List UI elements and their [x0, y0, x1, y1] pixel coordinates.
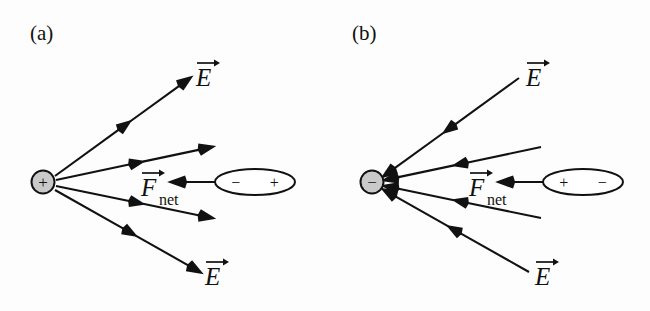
panel-b-mid-arrowhead — [451, 197, 469, 209]
panel-b-shaft-outer — [394, 188, 454, 200]
panel-a-net-force-label-subscript: net — [159, 191, 179, 208]
panel-b-shaft-outer — [394, 165, 454, 178]
panel-b-net-force-label-subscript: net — [487, 191, 507, 208]
panel-a-net-force-label-arrow-tip — [159, 170, 165, 177]
panel-a-mid-arrowhead — [121, 224, 138, 237]
panel-b-dipole-right-pole: − — [598, 174, 607, 191]
panel-a-shaft-inner — [56, 186, 130, 201]
panel-a-charge-sign: + — [38, 173, 48, 192]
panel-b-charge-sign: − — [367, 173, 377, 192]
panel-a-field-label-lower-arrow-tip — [223, 259, 229, 266]
panel-a-tip-arrowhead — [198, 209, 217, 221]
panel-a-field-label-lower: E — [204, 259, 229, 290]
panel-a-field-label-upper-letter: E — [195, 64, 211, 91]
panel-b-field-line-lower-mid — [381, 182, 541, 218]
panel-b-net-force-arrowhead — [495, 175, 515, 188]
panel-b-label: (b) — [352, 21, 377, 45]
panel-b-shaft-inner — [454, 78, 519, 125]
panel-a-net-force-label: Fnet — [140, 170, 179, 208]
panel-b-field-label-upper-arrow-tip — [544, 60, 550, 67]
panel-b-field-label-upper-letter: E — [525, 64, 541, 91]
panel-b-field-label-lower: E — [534, 259, 559, 290]
panel-a-shaft-outer — [143, 149, 203, 162]
panel-b-mid-arrowhead — [442, 120, 458, 134]
diagram-canvas: (a)−++EEFnet(b)+−−EEFnet — [0, 0, 650, 311]
panel-b-source-charge-negative: − — [361, 171, 384, 194]
panel-a-shaft-outer — [130, 83, 183, 121]
panel-a-dipole-outline — [215, 169, 295, 195]
panel-a-shaft-inner — [55, 190, 124, 229]
panel-a-field-line-upper — [55, 75, 194, 176]
panel-b-shaft-inner — [460, 233, 529, 272]
panel-b-net-force-arrow — [495, 175, 543, 188]
panel-b-field-label-lower-arrow-tip — [553, 259, 559, 266]
panel-a-field-line-upper-mid — [56, 143, 216, 180]
panel-b-net-force-label-letter: F — [468, 174, 485, 201]
panel-a-source-charge-positive: + — [32, 171, 55, 194]
panel-a-field-label-upper: E — [195, 60, 220, 91]
panel-a-net-force-arrow — [167, 175, 215, 188]
panel-b: (b)+−−EEFnet — [352, 21, 623, 290]
panel-b-dipole-left-pole: + — [559, 174, 568, 191]
panel-b-shaft-outer — [392, 194, 449, 226]
panel-a-dipole-oval: −+ — [215, 169, 295, 195]
panel-b-shaft-outer — [391, 132, 444, 170]
panel-a-tip-arrowhead — [176, 75, 193, 90]
figure-root: (a)−++EEFnet(b)+−−EEFnet — [0, 0, 650, 311]
panel-a-field-label-lower-letter: E — [204, 263, 220, 290]
panel-b-dipole-outline — [543, 169, 623, 195]
panel-b-dipole-oval: +− — [543, 169, 623, 195]
panel-b-net-force-label: Fnet — [468, 170, 507, 208]
panel-a-net-force-arrowhead — [167, 175, 187, 188]
panel-a-mid-arrowhead — [116, 120, 132, 134]
panel-b-mid-arrowhead — [451, 157, 469, 169]
panel-a-net-force-label-letter: F — [140, 174, 157, 201]
panel-a-tip-arrowhead — [186, 260, 204, 274]
panel-b-field-label-lower-letter: E — [534, 263, 550, 290]
panel-b-field-label-upper: E — [525, 60, 550, 91]
panel-a: (a)−++EEFnet — [30, 21, 295, 290]
panel-b-mid-arrowhead — [446, 225, 463, 238]
panel-b-shaft-inner — [467, 147, 541, 163]
panel-b-field-line-upper — [380, 78, 519, 179]
panel-a-dipole-right-pole: + — [270, 174, 279, 191]
panel-a-label: (a) — [30, 21, 53, 45]
panel-b-field-line-upper-mid — [381, 147, 541, 184]
panel-a-dipole-left-pole: − — [231, 174, 240, 191]
panel-b-net-force-label-arrow-tip — [487, 170, 493, 177]
panel-a-tip-arrowhead — [198, 143, 217, 155]
panel-a-field-label-upper-arrow-tip — [214, 60, 220, 67]
panel-a-shaft-outer — [136, 236, 193, 268]
panel-a-mid-arrowhead — [128, 158, 146, 170]
